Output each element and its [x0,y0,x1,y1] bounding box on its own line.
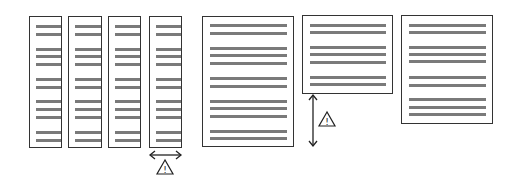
warning-symbol: ! [325,117,329,127]
horizontal-double-arrow-icon [150,151,181,159]
warning-symbol: ! [163,165,167,175]
warning-icon: ! [319,112,335,127]
warning-icon: ! [157,160,173,175]
annotation-layer: ! ! [0,0,519,188]
vertical-double-arrow-icon [309,95,317,146]
